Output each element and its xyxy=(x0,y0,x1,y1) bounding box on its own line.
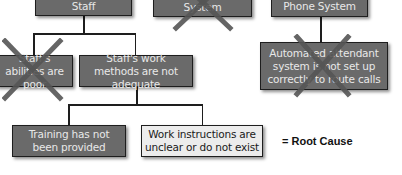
node-label: Automated attendant system is not set up… xyxy=(264,47,384,86)
node-staff-work-methods: Staff's work methods are not adequate xyxy=(79,55,193,87)
node-label: Staff's abilities are poor xyxy=(0,52,69,91)
node-staff: Staff xyxy=(35,0,132,16)
legend-root-cause: = Root Cause xyxy=(282,135,353,147)
node-work-instructions-root-cause: Work instructions are unclear or do not … xyxy=(141,125,263,157)
connector-methods-horizontal xyxy=(68,104,203,106)
connector-phone-down xyxy=(320,16,322,43)
node-label: Staff xyxy=(72,0,96,13)
node-label: Training has not been provided xyxy=(16,128,122,154)
node-label: Staff's work methods are not adequate xyxy=(83,52,189,91)
connector-to-work-instructions xyxy=(202,104,204,125)
connector-to-training xyxy=(68,104,70,125)
node-staff-abilities: Staff's abilities are poor xyxy=(0,55,73,87)
node-label: System xyxy=(184,0,222,14)
node-label: Work instructions are unclear or do not … xyxy=(145,128,259,154)
node-training: Training has not been provided xyxy=(12,125,126,157)
node-system: System xyxy=(153,0,252,17)
connector-staff-down xyxy=(83,16,85,34)
connector-staff-horizontal xyxy=(33,33,136,35)
node-phone-system: Phone System xyxy=(271,0,368,17)
node-automated-attendant: Automated attendant system is not set up… xyxy=(260,42,388,90)
node-label: Phone System xyxy=(283,0,356,13)
